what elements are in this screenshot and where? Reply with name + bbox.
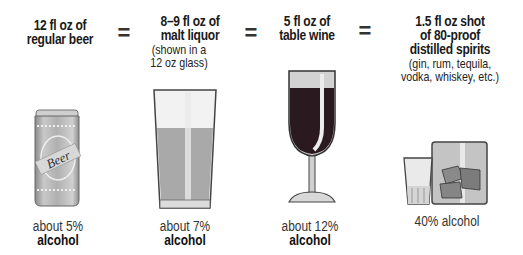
spirits-note: (gin, rum, tequila, vodka, whiskey, etc.… (397, 57, 504, 83)
malt-heading: 8–9 fl oz of malt liquor (147, 14, 233, 42)
pint-glass-icon (151, 88, 219, 213)
malt-caption-alcohol: alcohol (151, 233, 219, 247)
shot-glass-icon (402, 140, 490, 208)
spirits-note-line2: vodka, whiskey, etc.) (397, 70, 504, 83)
equals-sign-1: = (114, 22, 134, 44)
wine-caption: about 12% alcohol (276, 219, 344, 247)
spirits-caption-percent: 40% alcohol (415, 213, 480, 229)
wine-glass-icon (284, 68, 340, 208)
beer-heading-line2: regular beer (17, 32, 103, 46)
beer-caption: about 5% alcohol (24, 219, 92, 247)
wine-heading-line1: 5 fl oz of (268, 14, 345, 28)
spirits-heading-line2: of 80-proof (394, 28, 506, 42)
beer-heading: 12 fl oz of regular beer (17, 18, 103, 46)
malt-note: (shown in a 12 oz glass) (147, 43, 211, 69)
malt-caption: about 7% alcohol (151, 219, 219, 247)
equals-sign-3: = (355, 20, 375, 42)
malt-note-line2: 12 oz glass) (147, 56, 211, 69)
beer-heading-line1: 12 fl oz of (17, 18, 103, 32)
spirits-heading-line1: 1.5 fl oz shot (394, 14, 506, 28)
beer-can-icon: Beer (32, 108, 82, 208)
wine-heading-line2: table wine (268, 28, 345, 42)
spirits-heading-line3: distilled spirits (394, 42, 506, 56)
malt-heading-line1: 8–9 fl oz of (147, 14, 233, 28)
wine-heading: 5 fl oz of table wine (268, 14, 345, 42)
wine-caption-alcohol: alcohol (276, 233, 344, 247)
equals-sign-2: = (241, 22, 261, 44)
spirits-heading: 1.5 fl oz shot of 80-proof distilled spi… (394, 14, 506, 56)
spirits-caption: 40% alcohol (409, 214, 486, 228)
malt-heading-line2: malt liquor (147, 28, 233, 42)
beer-caption-alcohol: alcohol (24, 233, 92, 247)
